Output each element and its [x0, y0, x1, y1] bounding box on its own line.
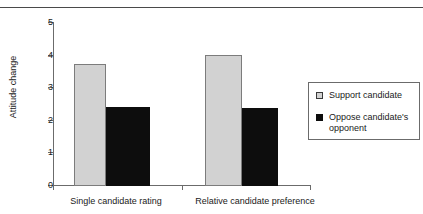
y-tick-5: 5	[0, 22, 53, 23]
legend-swatch-light-square-icon	[316, 92, 323, 99]
bar-support-candidate-single-rating	[74, 64, 106, 186]
x-tick-right	[310, 185, 311, 190]
y-tick-label-4: 4	[15, 51, 53, 60]
y-tick-label-3: 3	[15, 83, 53, 92]
y-tick-0: 0	[0, 185, 53, 186]
bar-oppose-opponent-relative-preference	[242, 108, 278, 186]
legend-swatch-black-square-icon	[316, 114, 323, 121]
y-tick-label-1: 1	[15, 148, 53, 157]
x-tick-left	[53, 185, 54, 190]
legend-item-support-candidate: Support candidate	[316, 90, 417, 101]
legend: Support candidate Oppose candidate's opp…	[308, 82, 420, 140]
y-tick-3: 3	[0, 87, 53, 88]
legend-item-oppose-opponent: Oppose candidate's opponent	[316, 112, 417, 134]
x-tick-middle	[182, 185, 183, 190]
y-tick-1: 1	[0, 152, 53, 153]
y-axis-line	[53, 22, 54, 185]
bar-oppose-opponent-single-rating	[106, 107, 150, 186]
bar-support-candidate-relative-preference	[205, 55, 242, 186]
legend-label-support-candidate: Support candidate	[329, 90, 417, 101]
y-tick-label-2: 2	[15, 116, 53, 125]
y-tick-label-0: 0	[15, 181, 53, 190]
y-tick-4: 4	[0, 55, 53, 56]
y-tick-label-5: 5	[15, 18, 53, 27]
x-category-label-1: Relative candidate preference	[180, 196, 330, 206]
y-tick-2: 2	[0, 120, 53, 121]
chart-figure: Attitude change 5 4 3 2 1 0	[0, 0, 423, 214]
legend-label-oppose-opponent: Oppose candidate's opponent	[329, 112, 417, 134]
x-category-label-0: Single candidate rating	[52, 196, 180, 206]
